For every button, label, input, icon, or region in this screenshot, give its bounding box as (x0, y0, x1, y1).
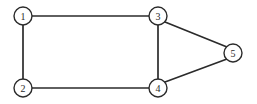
graph-node-3: 3 (149, 7, 167, 25)
edge-3-5 (165, 22, 227, 47)
edge-4-5 (165, 59, 227, 82)
graph-node-5: 5 (224, 44, 242, 62)
node-4-label: 4 (156, 83, 161, 94)
graph-node-2: 2 (14, 79, 32, 97)
graph-canvas: 1 2 3 4 5 (0, 0, 257, 104)
node-group: 1 2 3 4 5 (14, 7, 242, 97)
edge-group (23, 16, 227, 88)
graph-node-1: 1 (14, 7, 32, 25)
node-2-label: 2 (21, 83, 26, 94)
node-3-label: 3 (156, 11, 161, 22)
node-5-label: 5 (231, 48, 236, 59)
graph-diagram: 1 2 3 4 5 (0, 0, 257, 104)
node-1-label: 1 (21, 11, 26, 22)
graph-node-4: 4 (149, 79, 167, 97)
